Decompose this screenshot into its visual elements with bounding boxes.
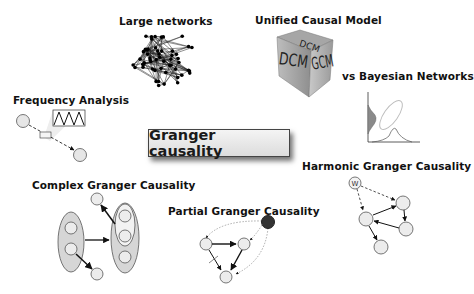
network-node bbox=[169, 57, 173, 61]
network-node bbox=[143, 61, 147, 65]
network-node bbox=[159, 67, 163, 71]
harmonic-granger-diagram: W bbox=[349, 177, 413, 254]
network-node bbox=[170, 54, 174, 58]
network-node bbox=[187, 45, 191, 49]
harmonic-source-symbol: W bbox=[352, 180, 359, 188]
cube-face-left: DCM bbox=[278, 48, 310, 72]
network-node bbox=[177, 61, 181, 65]
network-node bbox=[171, 49, 175, 53]
network-node bbox=[190, 46, 194, 50]
network-node bbox=[160, 49, 164, 53]
network-node bbox=[138, 57, 142, 61]
network-node bbox=[146, 52, 150, 56]
network-node bbox=[154, 58, 158, 62]
network-node bbox=[164, 71, 168, 75]
network-node bbox=[160, 35, 164, 39]
network-node bbox=[150, 35, 154, 39]
network-node bbox=[174, 67, 178, 71]
unified-model-cube: DCM DCM GCM bbox=[277, 30, 335, 97]
network-node bbox=[144, 34, 148, 38]
node bbox=[17, 115, 30, 128]
network-node bbox=[154, 46, 158, 50]
network-node bbox=[157, 80, 161, 84]
complex-granger-diagram bbox=[58, 193, 139, 280]
network-node bbox=[157, 84, 161, 88]
network-node bbox=[175, 53, 179, 57]
partial-granger-diagram bbox=[200, 216, 275, 284]
large-network-graph bbox=[131, 34, 193, 87]
network-node bbox=[176, 76, 180, 80]
network-node bbox=[131, 63, 135, 67]
frequency-diagram bbox=[17, 110, 87, 162]
network-node bbox=[180, 73, 184, 77]
network-node bbox=[162, 82, 166, 86]
network-node bbox=[156, 49, 160, 53]
node bbox=[74, 149, 87, 162]
network-node bbox=[148, 58, 152, 62]
network-node bbox=[188, 71, 192, 75]
network-node bbox=[153, 35, 157, 39]
network-node bbox=[180, 35, 184, 39]
bayesian-plot bbox=[368, 92, 420, 142]
network-node bbox=[158, 55, 162, 59]
network-node bbox=[176, 57, 180, 61]
network-node bbox=[168, 64, 172, 68]
network-node bbox=[144, 47, 148, 51]
network-node bbox=[162, 59, 166, 63]
network-node bbox=[176, 81, 180, 85]
cube-face-right: GCM bbox=[310, 50, 335, 74]
network-node bbox=[153, 69, 157, 73]
filter-box bbox=[40, 132, 51, 138]
